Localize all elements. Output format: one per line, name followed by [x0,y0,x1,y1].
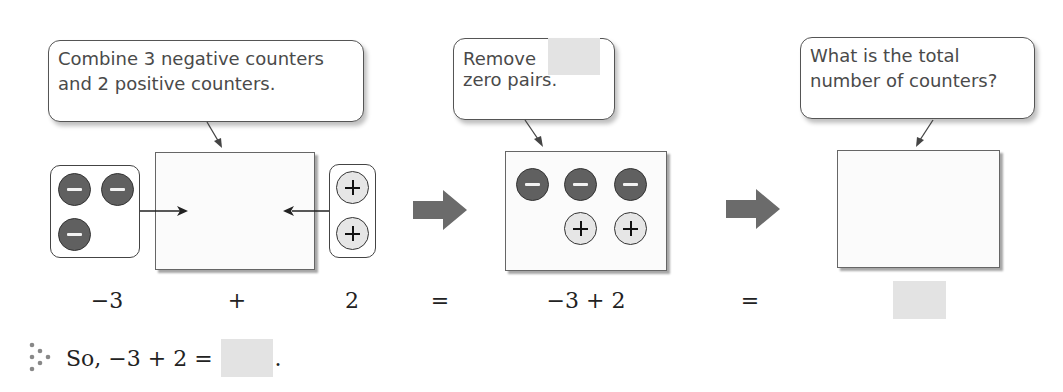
zero-pairs-mat [505,151,667,271]
equation-equals-1: = [431,288,449,313]
callout-combine-line1: Combine 3 negative counters [58,46,354,71]
equation-expression: −3 + 2 [547,288,626,313]
conclusion-line: So, −3 + 2 = . [28,339,282,377]
callout-pointer-2 [520,118,550,148]
positive-counter [614,212,647,245]
callout-pointer-3 [908,118,938,148]
negative-counter-group [50,165,140,258]
positive-counter [336,217,369,250]
conclusion-period: . [275,346,282,371]
step-arrow-1 [413,190,467,230]
callout-remove: Remove zero pairs. [453,38,615,120]
negative-counter [614,168,647,201]
conclusion-text: So, −3 + 2 = [66,346,213,371]
positive-counter [336,171,369,204]
callout-total-line1: What is the total [810,43,1025,68]
equation-term-neg3: −3 [91,288,123,313]
triple-dot-therefore-icon [28,340,54,376]
step-arrow-2 [726,189,780,229]
negative-counter [58,218,91,251]
callout-combine: Combine 3 negative counters and 2 positi… [48,40,364,122]
arrow-into-mat-right [140,204,190,218]
equation-answer-blank[interactable] [893,281,946,319]
equation-plus: + [228,288,246,313]
callout-pointer-1 [200,120,230,150]
negative-counter [101,173,134,206]
arrow-into-mat-left [282,204,332,218]
equation-term-2: 2 [345,288,359,313]
callout-total: What is the total number of counters? [800,37,1035,119]
conclusion-answer-blank[interactable] [221,339,273,377]
negative-counter [516,168,549,201]
positive-counter-group [329,164,376,258]
equation-equals-2: = [741,288,759,313]
negative-counter [564,168,597,201]
positive-counter [564,212,597,245]
callout-total-line2: number of counters? [810,68,1025,93]
callout-combine-line2: and 2 positive counters. [58,71,354,96]
callout-remove-text: Remove [463,48,536,69]
result-mat [837,150,1000,268]
negative-counter [58,173,91,206]
